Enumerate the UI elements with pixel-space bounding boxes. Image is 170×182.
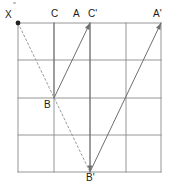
segment-B-A xyxy=(54,23,90,98)
point-label-C-prime: C' xyxy=(88,9,97,19)
point-label-C: C xyxy=(51,9,58,19)
arrow-at-Ap-icon xyxy=(156,23,161,30)
segment-Bp-Ap xyxy=(90,23,161,172)
point-markers xyxy=(16,21,161,172)
point-label-B: B xyxy=(44,100,51,110)
geometry-figure: X C A C' A' B B' xyxy=(0,0,170,182)
point-label-B-prime: B' xyxy=(86,173,95,182)
construction-segments xyxy=(18,23,161,172)
point-label-X: X xyxy=(5,10,12,20)
point-label-A-prime: A' xyxy=(153,9,162,19)
arrow-at-A-icon xyxy=(85,23,90,30)
point-label-A: A xyxy=(73,9,80,19)
vertex-dot-X xyxy=(16,21,21,26)
figure-canvas xyxy=(0,0,170,182)
